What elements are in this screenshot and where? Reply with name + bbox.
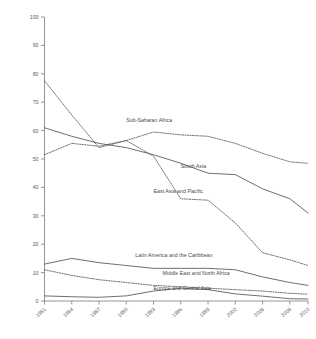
x-axis: 1981198419871990199319961999200220052008… bbox=[34, 301, 310, 318]
x-tick-label: 1996 bbox=[171, 306, 184, 318]
x-tick-label: 1984 bbox=[62, 306, 75, 318]
y-tick-label: 70 bbox=[33, 99, 39, 105]
series-line-south-asia bbox=[45, 128, 309, 213]
x-tick-label: 2002 bbox=[225, 306, 238, 318]
y-tick-label: 60 bbox=[33, 128, 39, 134]
y-tick-label: 80 bbox=[33, 71, 39, 77]
y-axis: 0102030405060708090100 bbox=[30, 14, 45, 304]
chart-plot-area: 0102030405060708090100 19811984198719901… bbox=[0, 0, 316, 339]
series-label-middle-east-and-north-africa: Middle East and North Africa bbox=[163, 270, 230, 276]
x-tick-label: 2008 bbox=[280, 306, 293, 318]
series-label-east-asia-and-pacific: East Asia and Pacific bbox=[154, 188, 204, 194]
y-tick-label: 100 bbox=[30, 14, 39, 20]
y-tick-label: 90 bbox=[33, 42, 39, 48]
y-tick-label: 20 bbox=[33, 241, 39, 247]
y-tick-label: 30 bbox=[33, 213, 39, 219]
x-tick-label: 1999 bbox=[198, 306, 211, 318]
series-label-europe-and-central-asia: Europe and Central Asia bbox=[154, 285, 211, 291]
y-tick-label: 10 bbox=[33, 270, 39, 276]
y-tick-label: 0 bbox=[36, 298, 39, 304]
series-line-east-asia-and-pacific bbox=[45, 81, 309, 266]
y-tick-label: 40 bbox=[33, 184, 39, 190]
x-tick-label: 1990 bbox=[116, 306, 129, 318]
series-line-sub-saharan-africa bbox=[45, 132, 309, 163]
y-tick-label: 50 bbox=[33, 156, 39, 162]
x-tick-label: 2005 bbox=[253, 306, 266, 318]
series-label-latin-america-and-the-caribbean: Latin America and the Caribbean bbox=[135, 252, 212, 258]
x-tick-label: 2010 bbox=[298, 306, 311, 318]
x-tick-label: 1981 bbox=[34, 306, 47, 318]
poverty-by-region-line-chart: 0102030405060708090100 19811984198719901… bbox=[0, 0, 316, 339]
series-labels: Sub-Saharan AfricaSouth AsiaEast Asia an… bbox=[126, 117, 230, 291]
x-tick-label: 1987 bbox=[89, 306, 102, 318]
series-label-sub-saharan-africa: Sub-Saharan Africa bbox=[126, 117, 172, 123]
x-tick-label: 1993 bbox=[143, 306, 156, 318]
series-label-south-asia: South Asia bbox=[181, 163, 206, 169]
